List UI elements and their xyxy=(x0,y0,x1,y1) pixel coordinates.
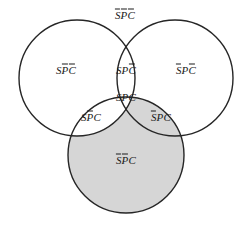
venn-diagram-canvas xyxy=(0,0,250,225)
venn-diagram-figure: SPCSPCSPCSPCSPCSPCSPCSPC xyxy=(0,0,250,225)
